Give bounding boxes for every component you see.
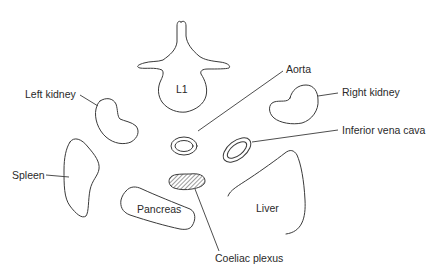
inferior-vena-cava: Inferior vena cava xyxy=(219,124,426,167)
ivc-label: Inferior vena cava xyxy=(342,124,426,136)
liver-label: Liver xyxy=(256,202,279,214)
pancreas-label: Pancreas xyxy=(137,203,181,215)
l1-label: L1 xyxy=(176,83,188,95)
left-kidney: Left kidney xyxy=(25,88,138,144)
coeliac-plexus-label: Coeliac plexus xyxy=(215,252,283,264)
pancreas: Pancreas xyxy=(121,187,195,229)
l1-vertebra: L1 xyxy=(138,21,230,112)
anatomy-diagram: L1 Left kidney Aorta Right kidney Inferi… xyxy=(0,0,437,278)
liver: Liver xyxy=(228,151,305,234)
coeliac-plexus: Coeliac plexus xyxy=(169,174,283,264)
right-kidney: Right kidney xyxy=(270,85,401,124)
right-kidney-label: Right kidney xyxy=(342,86,401,98)
spleen: Spleen xyxy=(12,139,99,217)
spleen-label: Spleen xyxy=(12,169,45,181)
aorta: Aorta xyxy=(171,63,311,155)
aorta-label: Aorta xyxy=(286,63,311,75)
left-kidney-label: Left kidney xyxy=(25,88,77,100)
